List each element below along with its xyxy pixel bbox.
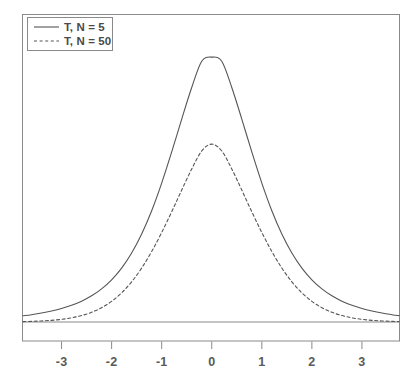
x-tick-label: -1: [156, 355, 168, 369]
x-tick-label: 1: [258, 355, 265, 369]
legend: T, N = 5 T, N = 50: [28, 18, 113, 51]
x-tick-label: 3: [358, 355, 365, 369]
x-tick-label: 2: [308, 355, 315, 369]
legend-label-0: T, N = 5: [64, 21, 105, 33]
density-plot: -3-2-10123 T, N = 5 T, N = 50: [0, 0, 420, 386]
chart-figure: -3-2-10123 T, N = 5 T, N = 50: [0, 0, 420, 386]
x-tick-label: -3: [56, 355, 68, 369]
plot-background: [0, 0, 420, 386]
x-tick-label: -2: [106, 355, 118, 369]
x-tick-label: 0: [208, 355, 215, 369]
legend-label-1: T, N = 50: [64, 35, 111, 47]
